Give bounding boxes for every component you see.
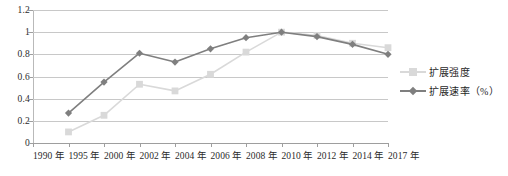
x-axis-tick-label: 2008 年 xyxy=(246,150,278,162)
x-axis-tick xyxy=(175,143,176,147)
legend-item-expansion-intensity[interactable]: 扩展强度 xyxy=(400,62,508,81)
x-axis-tick xyxy=(246,143,247,147)
y-axis-tick-label: 0 xyxy=(0,138,30,148)
x-axis-tick xyxy=(69,143,70,147)
y-axis-tick-label: 0.6 xyxy=(0,72,30,82)
y-axis-tick-label: 1 xyxy=(0,27,30,37)
x-axis-tick xyxy=(388,143,389,147)
legend-label-expansion-intensity: 扩展强度 xyxy=(429,64,470,79)
x-axis-tick xyxy=(104,143,105,147)
legend-square-marker-icon xyxy=(409,68,417,76)
plot-area xyxy=(33,10,388,143)
series-square-marker xyxy=(136,81,143,88)
y-axis-tick-label: 0.8 xyxy=(0,49,30,59)
legend-label-expansion-rate: 扩展速率（%） xyxy=(429,83,499,98)
legend-diamond-marker-icon xyxy=(409,86,417,94)
x-axis-tick-label: 2012 年 xyxy=(317,150,349,162)
x-axis-tick-label: 2002 年 xyxy=(140,150,172,162)
legend-item-expansion-rate[interactable]: 扩展速率（%） xyxy=(400,81,508,100)
x-axis-tick xyxy=(353,143,354,147)
x-axis-tick-label: 2014 年 xyxy=(353,150,385,162)
series-layer xyxy=(33,10,388,143)
y-axis-tick-label: 1.2 xyxy=(0,5,30,15)
x-axis-tick-label: 1990 年 xyxy=(33,150,65,162)
series-square-marker xyxy=(385,44,392,51)
x-axis-tick-label: 2010 年 xyxy=(282,150,314,162)
series-square-marker xyxy=(101,112,108,119)
chart-legend: 扩展强度 扩展速率（%） xyxy=(400,62,508,100)
x-axis-tick xyxy=(140,143,141,147)
x-axis-tick-label: 1995 年 xyxy=(69,150,101,162)
x-axis-tick xyxy=(33,143,34,147)
x-axis-tick xyxy=(282,143,283,147)
y-axis-tick-label: 0.4 xyxy=(0,94,30,104)
x-axis-tick-label: 2004 年 xyxy=(175,150,207,162)
series-diamond-marker xyxy=(384,51,391,58)
series-square-marker xyxy=(207,71,214,78)
x-axis-tick xyxy=(211,143,212,147)
series-line xyxy=(69,32,389,132)
series-diamond-marker xyxy=(207,45,214,52)
x-axis-tick-label: 2000 年 xyxy=(104,150,136,162)
series-square-marker xyxy=(65,129,72,136)
series-square-marker xyxy=(243,49,250,56)
series-square-marker xyxy=(172,88,179,95)
line-chart: 00.20.40.60.811.2 1990 年1995 年2000 年2002… xyxy=(0,0,508,176)
series-diamond-marker xyxy=(242,34,249,41)
x-axis-labels: 1990 年1995 年2000 年2002 年2004 年2006 年2008… xyxy=(0,150,508,168)
legend-swatch-expansion-rate xyxy=(400,85,426,97)
x-axis-tick-label: 2017 年 xyxy=(388,150,420,162)
legend-swatch-expansion-intensity xyxy=(400,66,426,78)
x-axis-tick-label: 2006 年 xyxy=(211,150,243,162)
x-axis-tick xyxy=(317,143,318,147)
y-axis-tick-label: 0.2 xyxy=(0,116,30,126)
series-diamond-marker xyxy=(171,58,178,65)
series-line xyxy=(69,32,389,113)
